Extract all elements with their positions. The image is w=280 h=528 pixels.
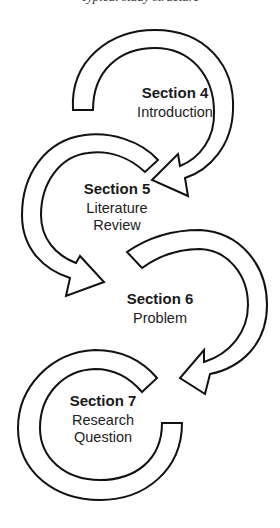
section-7-subtitle: Research Question xyxy=(63,412,143,445)
section-6-label: Section 6 Problem xyxy=(100,290,220,327)
section-4-title: Section 4 xyxy=(115,84,235,101)
section-5-label: Section 5 Literature Review xyxy=(62,180,172,234)
section-6-title: Section 6 xyxy=(100,290,220,307)
section-5-title: Section 5 xyxy=(62,180,172,197)
section-4-label: Section 4 Introduction xyxy=(115,84,235,121)
section-5-subtitle: Literature Review xyxy=(77,200,157,233)
section-6-subtitle: Problem xyxy=(100,310,220,327)
section-7-label: Section 7 Research Question xyxy=(48,392,158,446)
section-4-subtitle: Introduction xyxy=(115,104,235,121)
section-7-title: Section 7 xyxy=(48,392,158,409)
flow-arrows xyxy=(0,0,280,528)
